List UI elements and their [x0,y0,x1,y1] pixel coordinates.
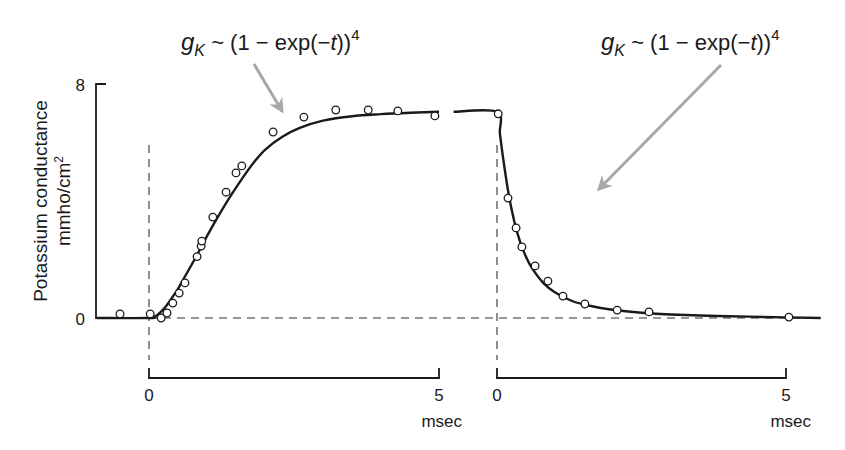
left-annotation-arrow [254,64,282,111]
left-x-unit: msec [421,412,462,431]
data-point [394,107,402,115]
data-point [504,194,512,202]
left-x-tick-5: 5 [434,386,443,405]
y-axis-line [96,84,106,318]
right-eq-g: g [601,28,615,55]
data-point [146,310,154,318]
data-point [222,188,230,196]
y-axis-units: mmho/cm2 [52,156,74,246]
data-point [613,306,621,314]
data-point [181,279,189,287]
data-point [559,292,567,300]
y-axis-label: Potassium conductance [30,100,51,302]
data-point [581,300,589,308]
y-axis-units-text: mmho/cm [53,163,74,246]
data-point [269,128,277,136]
right-eq-body: ~ (1 − exp(− [625,30,750,55]
left-eq-body: ~ (1 − exp(− [205,30,330,55]
data-point [364,106,372,114]
data-point [645,308,653,316]
right-x-tick-5: 5 [781,386,790,405]
left-equation-annotation: gK ~ (1 − exp(−t))4 [181,26,360,59]
data-point [193,253,201,261]
left-x-tick-0: 0 [144,386,153,405]
right-annotation-arrow [599,65,721,189]
data-point [544,277,552,285]
left-eq-g: g [181,28,195,55]
potassium-conductance-chart: Potassium conductance mmho/cm2 8 0 0 5 m… [0,0,845,450]
left-eq-sup: 4 [351,26,359,43]
data-point [209,213,217,221]
data-point [175,289,183,297]
left-eq-close: )) [337,30,352,55]
right-x-unit: msec [770,412,811,431]
y-axis-units-sup: 2 [52,156,66,163]
data-point [494,110,502,118]
data-point [198,237,206,245]
rise-fit-curve [97,112,439,318]
data-point [169,299,177,307]
data-point [531,262,539,270]
right-equation-annotation: gK ~ (1 − exp(−t))4 [601,26,780,59]
y-tick-0: 0 [76,310,85,329]
right-eq-close: )) [757,30,772,55]
data-point [785,313,793,321]
data-point [518,243,526,251]
svg-text:gK ~ (1 − exp(−t))4: gK ~ (1 − exp(−t))4 [181,26,360,59]
data-point [232,169,240,177]
fall-panel [454,110,821,321]
right-eq-sup: 4 [771,26,779,43]
data-point [512,224,520,232]
right-x-tick-0: 0 [492,386,501,405]
svg-text:mmho/cm2: mmho/cm2 [52,156,74,246]
data-point [300,113,308,121]
y-axis-title: Potassium conductance [30,100,51,302]
left-x-axis-scale-bar [149,368,439,378]
data-point [332,106,340,114]
data-point [238,162,246,170]
data-point [116,310,124,318]
rise-panel [97,106,439,322]
data-point [163,309,171,317]
svg-text:gK ~ (1 − exp(−t))4: gK ~ (1 − exp(−t))4 [601,26,780,59]
fall-fit-curve [454,110,821,318]
data-point [431,112,439,120]
right-x-axis-scale-bar [497,368,786,378]
y-tick-8: 8 [76,76,85,95]
